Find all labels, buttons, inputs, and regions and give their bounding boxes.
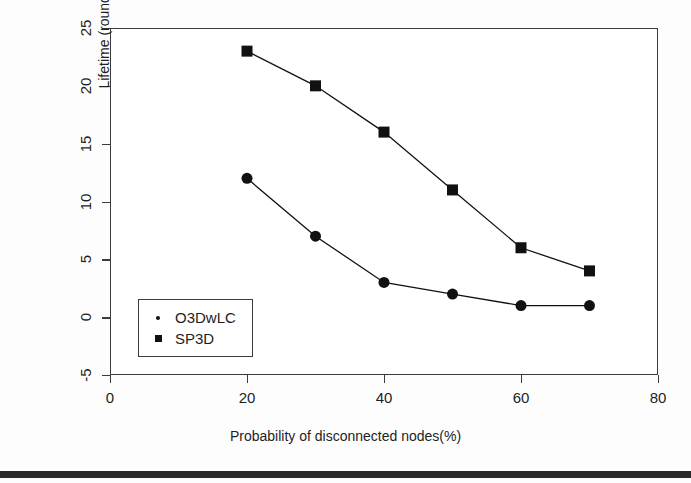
x-axis-tick-mark <box>110 375 111 383</box>
series-line-o3dwlc <box>247 178 590 305</box>
y-axis-tick-mark <box>102 317 110 318</box>
data-point-square <box>310 80 321 91</box>
x-axis-tick-label: 80 <box>650 389 667 406</box>
square-marker-icon <box>149 335 167 342</box>
y-axis-tick-mark <box>102 259 110 260</box>
legend-label: SP3D <box>167 330 214 347</box>
y-axis-tick-label: 0 <box>77 304 94 330</box>
data-point-circle <box>379 277 390 288</box>
chart-figure: 020406080-50510152025 Probability of dis… <box>0 0 691 483</box>
x-axis-tick-mark <box>247 375 248 383</box>
circle-marker-icon <box>149 316 167 320</box>
data-point-square <box>379 127 390 138</box>
y-axis-tick-label: 25 <box>77 15 94 41</box>
x-axis-tick-label: 20 <box>239 389 256 406</box>
legend-label: O3DwLC <box>167 309 236 326</box>
data-point-circle <box>310 231 321 242</box>
x-axis-tick-label: 40 <box>376 389 393 406</box>
x-axis-title: Probability of disconnected nodes(%) <box>0 428 691 444</box>
data-point-square <box>516 242 527 253</box>
legend-item-o3dwlc: O3DwLC <box>149 307 236 328</box>
x-axis-tick-mark <box>521 375 522 383</box>
y-axis-tick-label: 15 <box>77 131 94 157</box>
scan-artifact-bar <box>0 471 691 478</box>
series-line-sp3d <box>247 51 590 271</box>
data-point-square <box>584 265 595 276</box>
y-axis-tick-label: -5 <box>77 362 94 388</box>
y-axis-tick-label: 20 <box>77 73 94 99</box>
y-axis-tick-label: 10 <box>77 189 94 215</box>
data-point-square <box>242 46 253 57</box>
data-point-circle <box>447 289 458 300</box>
x-axis-tick-mark <box>384 375 385 383</box>
legend-item-sp3d: SP3D <box>149 328 236 349</box>
data-point-circle <box>242 173 253 184</box>
x-axis-tick-label: 60 <box>513 389 530 406</box>
x-axis-tick-mark <box>658 375 659 383</box>
data-point-square <box>447 184 458 195</box>
y-axis-tick-label: 5 <box>77 246 94 272</box>
x-axis-tick-label: 0 <box>106 389 114 406</box>
y-axis-title: Lifetime (rounds) <box>96 0 112 210</box>
chart-legend: O3DwLC SP3D <box>138 299 253 357</box>
y-axis-tick-mark <box>102 375 110 376</box>
data-point-circle <box>584 300 595 311</box>
data-point-circle <box>516 300 527 311</box>
